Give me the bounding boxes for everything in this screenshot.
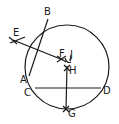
label-d: D xyxy=(103,85,111,96)
label-e: E xyxy=(13,27,19,38)
label-h: H xyxy=(69,65,77,76)
construction-mark-e xyxy=(9,37,25,44)
label-b: B xyxy=(44,6,51,17)
label-c: C xyxy=(24,87,31,98)
geometry-diagram: B A E F J H C D G xyxy=(0,0,119,124)
label-g: G xyxy=(68,108,76,119)
label-a: A xyxy=(20,74,27,85)
label-f: F xyxy=(59,48,65,59)
label-j: J xyxy=(69,49,73,60)
bisector-cd xyxy=(66,66,67,109)
bisector-ab xyxy=(13,40,63,60)
